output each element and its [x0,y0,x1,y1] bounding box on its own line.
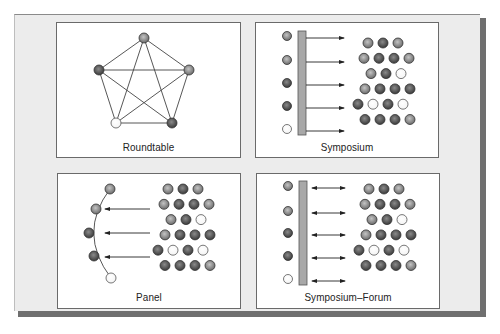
participant-dot-mid [105,184,115,194]
lectern-bar [298,31,306,135]
participant-dot-dark [406,230,416,240]
participant-dot-mid [405,115,415,125]
participant-dot-dark [391,261,401,271]
participant-dot-light [399,245,409,255]
participant-dot-dark [175,261,185,271]
participant-dot-light [106,273,116,283]
participant-dot-mid [204,199,214,209]
participant-dot-mid [393,38,403,48]
participant-dot-dark [378,38,388,48]
participant-dot-mid [361,230,371,240]
participant-dot-mid [367,215,377,225]
participant-dot-dark [354,245,364,255]
participant-dot-mid [283,56,292,65]
participant-dot-dark [360,115,370,125]
participant-dot-dark [94,65,104,75]
participant-dot-light [396,69,406,79]
panel-label: Panel [67,291,231,303]
participant-dot-mid [360,199,370,209]
participant-dot-mid [163,184,173,194]
participant-dot-light [111,118,121,128]
participant-dot-dark [390,199,400,209]
participant-dot-mid [363,38,373,48]
participant-dot-dark [153,245,163,255]
participant-dot-dark [189,199,199,209]
roundtable-panel: Roundtable [56,22,241,158]
participant-dot-dark [183,245,193,255]
participant-dot-dark [376,230,386,240]
participant-dot-dark [405,84,415,94]
participant-dot-mid [205,261,215,271]
roundtable-diagram [57,23,242,159]
participant-dot-dark [175,230,185,240]
participant-dot-dark [383,99,393,109]
participant-dot-light [196,215,206,225]
participant-dot-mid [284,207,293,216]
symposium-forum-label: Symposium–Forum [266,291,430,303]
participant-dot-dark [375,84,385,94]
participant-dot-light [168,245,178,255]
participant-dot-dark [379,184,389,194]
participant-dot-light [368,99,378,109]
participant-dot-dark [382,215,392,225]
participant-dot-mid [166,215,176,225]
participant-dot-dark [390,115,400,125]
participant-dot-mid [394,184,404,194]
participant-dot-dark [89,251,99,261]
participant-dot-mid [406,261,416,271]
participant-dot-light [283,125,292,134]
participant-dot-mid [405,199,415,209]
participant-dot-dark [284,252,293,261]
participant-dot-dark [181,215,191,225]
participant-dot-dark [167,118,177,128]
participant-dot-dark [376,261,386,271]
panel-diagram [58,174,242,310]
lectern-bar [299,181,307,285]
participant-dot-dark [361,261,371,271]
symposium-diagram [256,23,440,159]
participant-dot-dark [190,230,200,240]
roundtable-label: Roundtable [66,141,231,153]
participant-dot-light [198,245,208,255]
participant-dot-dark [84,228,94,238]
participant-dot-dark [174,199,184,209]
participant-dot-dark [390,84,400,94]
participant-dot-dark [205,230,215,240]
participant-dot-dark [374,53,384,63]
participant-dot-dark [391,230,401,240]
participant-dot-dark [283,102,292,111]
participant-dot-light [397,215,407,225]
participant-dot-dark [353,99,363,109]
participant-dot-dark [160,261,170,271]
participant-dot-dark [178,184,188,194]
participant-dot-dark [190,261,200,271]
participant-dot-mid [284,182,293,191]
participant-dot-dark [283,79,292,88]
participant-dot-dark [284,229,293,238]
participant-dot-dark [375,199,385,209]
participant-dot-dark [375,115,385,125]
participant-dot-mid [193,184,203,194]
participant-dot-light [369,245,379,255]
participant-dot-mid [364,184,374,194]
participant-dot-mid [91,204,101,214]
participant-dot-mid [360,84,370,94]
participant-dot-mid [160,230,170,240]
participant-dot-light [284,275,293,284]
participant-dot-mid [404,53,414,63]
participant-dot-mid [159,199,169,209]
participant-dot-mid [359,53,369,63]
symposium-label: Symposium [265,141,429,153]
participant-dot-dark [389,53,399,63]
participant-dot-mid [139,33,149,43]
symposium-forum-panel: Symposium–Forum [256,173,440,309]
symposium-panel: Symposium [255,22,439,158]
symposium-forum-diagram [257,174,441,310]
participant-dot-light [398,99,408,109]
participant-dot-mid [366,69,376,79]
panel-panel: Panel [57,173,241,309]
participant-dot-mid [184,65,194,75]
participant-dot-dark [381,69,391,79]
participant-dot-dark [384,245,394,255]
participant-dot-mid [283,32,292,41]
